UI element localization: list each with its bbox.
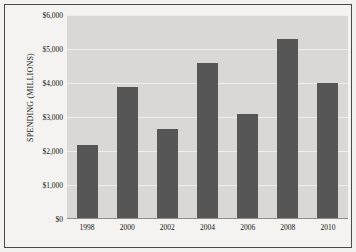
plot-area <box>67 15 348 219</box>
x-axis-tick-label: 2004 <box>200 223 215 232</box>
y-axis-tick-label: $1,000 <box>11 181 63 190</box>
chart-screenshot: SPENDING (MILLIONS) $0$1,000$2,000$3,000… <box>0 0 356 252</box>
x-axis-line <box>67 218 348 219</box>
x-axis-tick-label: 1998 <box>80 223 95 232</box>
y-axis-tick-label: $6,000 <box>11 11 63 20</box>
gridline <box>67 83 348 84</box>
x-axis-tick-label: 2006 <box>240 223 255 232</box>
gridline <box>67 185 348 186</box>
gridline <box>67 15 348 16</box>
y-axis-tick-label: $0 <box>11 215 63 224</box>
x-axis-tick-label: 2010 <box>320 223 335 232</box>
x-axis-tick-label: 2002 <box>160 223 175 232</box>
y-axis-tick-label: $4,000 <box>11 79 63 88</box>
x-axis-tick-label: 2008 <box>280 223 295 232</box>
gridline <box>67 49 348 50</box>
y-axis-tick-label: $2,000 <box>11 147 63 156</box>
gridline <box>67 117 348 118</box>
y-axis-tick-labels: $0$1,000$2,000$3,000$4,000$5,000$6,000 <box>5 15 63 219</box>
y-axis-tick-label: $3,000 <box>11 113 63 122</box>
x-axis-tick-label: 2000 <box>120 223 135 232</box>
x-axis-tick-labels: 1998200020022004200620082010 <box>67 223 348 241</box>
gridline <box>67 151 348 152</box>
y-axis-tick-label: $5,000 <box>11 45 63 54</box>
figure-frame: SPENDING (MILLIONS) $0$1,000$2,000$3,000… <box>4 4 352 248</box>
